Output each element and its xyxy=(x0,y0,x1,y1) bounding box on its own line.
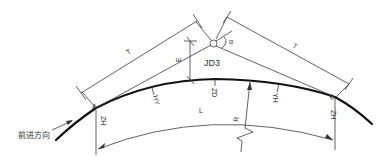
e-tick-top-slash xyxy=(187,37,194,46)
jd3-label: JD3 xyxy=(204,58,220,68)
radius-line xyxy=(237,82,253,152)
arc-arrowhead-left-icon xyxy=(98,143,105,149)
zd-label: ZD xyxy=(211,88,218,97)
right-t-label: T xyxy=(292,42,300,51)
yh-label: YH xyxy=(272,93,279,103)
left-t-tick-end xyxy=(193,14,202,28)
right-tangent-line xyxy=(216,46,335,97)
alpha-label: α xyxy=(229,38,233,45)
right-t-extension-b xyxy=(336,84,349,97)
hy-label: HY xyxy=(152,94,161,106)
left-t-tick-start xyxy=(76,86,86,100)
zh-start-label: ZH xyxy=(100,116,107,125)
curve-length-arc xyxy=(98,124,333,149)
deflection-angle-arc xyxy=(222,37,226,48)
right-t-extension-jd xyxy=(216,17,227,39)
direction-label: 前进方向 xyxy=(18,130,50,140)
left-t-extension-jd xyxy=(196,22,211,40)
right-t-dimension-line xyxy=(227,17,349,84)
direction-arrow-icon xyxy=(66,120,73,125)
curve-diagram: α JD3 T T E A B ZH HY ZD YH ZH L R 前进方向 xyxy=(0,0,387,166)
yh-tick xyxy=(277,84,279,92)
radius-label: R xyxy=(232,116,240,122)
zh-end-label: ZH xyxy=(330,110,337,119)
point-a-label: A xyxy=(92,103,97,110)
left-t-label: T xyxy=(125,47,133,56)
curve-length-label: L xyxy=(199,107,203,114)
e-label: E xyxy=(175,57,182,62)
hy-tick xyxy=(152,88,154,95)
intersection-point-marker xyxy=(210,40,217,47)
